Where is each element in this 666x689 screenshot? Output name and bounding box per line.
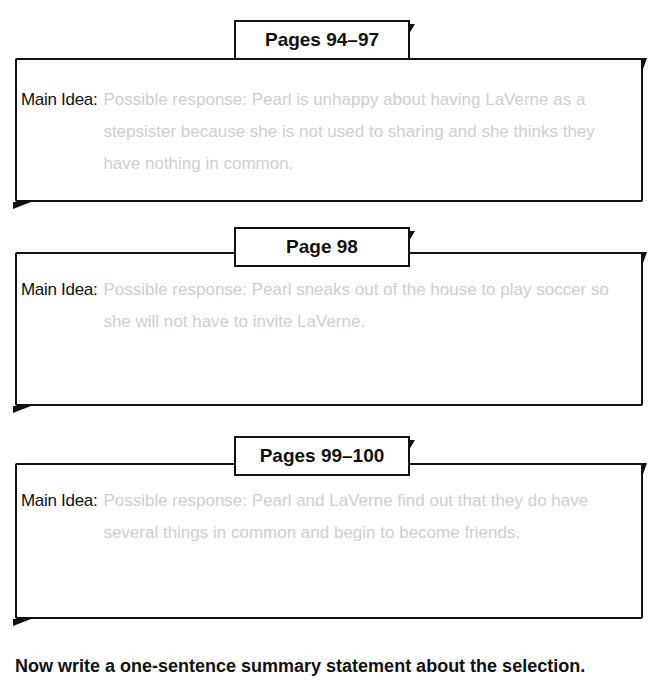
main-idea-box: Main Idea: Possible response: Pearl snea… bbox=[15, 252, 643, 406]
main-idea-label: Main Idea: bbox=[21, 274, 103, 338]
main-idea-label: Main Idea: bbox=[21, 485, 103, 549]
main-idea-row: Main Idea: Possible response: Pearl snea… bbox=[21, 274, 621, 338]
section-tab-label: Page 98 bbox=[286, 236, 358, 258]
summary-prompt: Now write a one-sentence summary stateme… bbox=[15, 656, 585, 677]
main-idea-answer: Possible response: Pearl sneaks out of t… bbox=[103, 274, 621, 338]
section-tab: Pages 94–97 bbox=[234, 20, 410, 60]
main-idea-row: Main Idea: Possible response: Pearl is u… bbox=[21, 84, 621, 180]
section-tab-label: Pages 94–97 bbox=[265, 29, 379, 51]
section-tab-label: Pages 99–100 bbox=[260, 445, 385, 467]
main-idea-answer: Possible response: Pearl and LaVerne fin… bbox=[103, 485, 621, 549]
main-idea-label: Main Idea: bbox=[21, 84, 103, 180]
main-idea-answer: Possible response: Pearl is unhappy abou… bbox=[103, 84, 621, 180]
main-idea-row: Main Idea: Possible response: Pearl and … bbox=[21, 485, 621, 549]
section-tab: Page 98 bbox=[234, 227, 410, 267]
main-idea-box: Main Idea: Possible response: Pearl and … bbox=[15, 463, 643, 619]
section-tab: Pages 99–100 bbox=[234, 436, 410, 476]
main-idea-box: Main Idea: Possible response: Pearl is u… bbox=[15, 58, 643, 202]
